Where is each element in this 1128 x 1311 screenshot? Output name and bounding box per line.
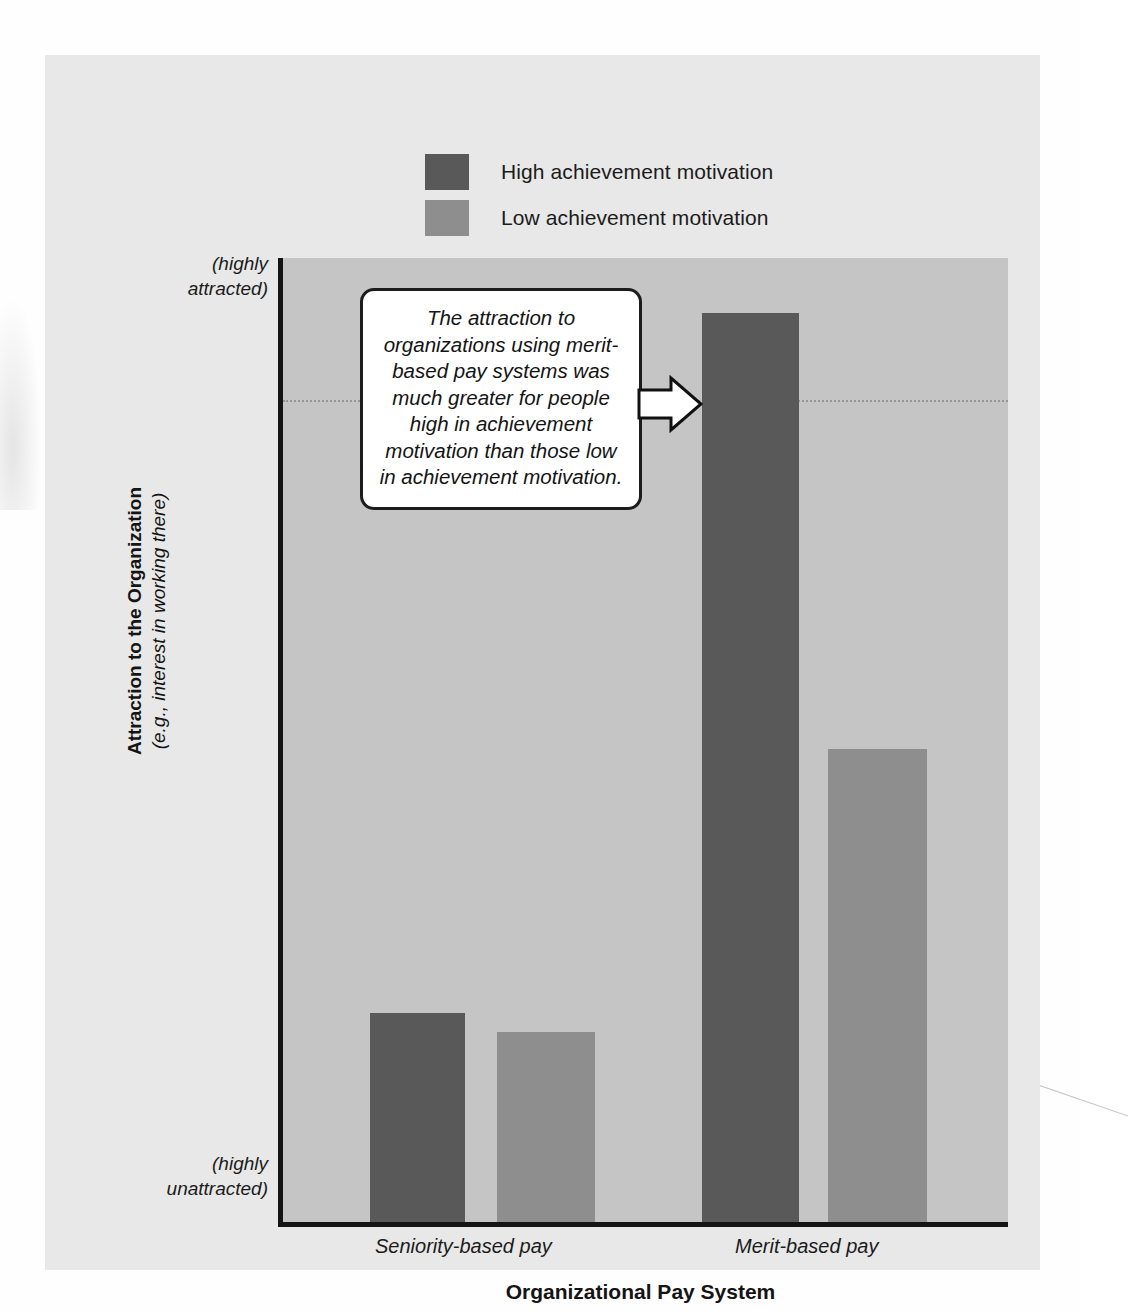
x-axis-title: Organizational Pay System [278, 1280, 1003, 1304]
legend-swatch-high [425, 154, 469, 190]
legend-item-low: Low achievement motivation [425, 199, 855, 237]
legend-swatch-low [425, 200, 469, 236]
y-axis-title-line2: (e.g., interest in working there) [147, 371, 171, 871]
bar-high-merit [702, 313, 799, 1222]
y-axis-bottom-label-line2: unattracted) [167, 1178, 268, 1199]
y-axis-top-label: (highly attracted) [105, 251, 268, 301]
y-axis-title: Attraction to the Organization (e.g., in… [123, 371, 171, 871]
legend: High achievement motivation Low achievem… [425, 153, 855, 245]
scan-artifact-left [0, 300, 42, 510]
y-axis-bottom-label: (highly unattracted) [85, 1151, 268, 1201]
figure-panel: High achievement motivation Low achievem… [45, 55, 1040, 1270]
x-tick-label-seniority: Seniority-based pay [375, 1235, 552, 1258]
legend-label-high: High achievement motivation [501, 160, 773, 184]
bar-low-merit [828, 749, 927, 1222]
bar-high-seniority [370, 1013, 465, 1222]
bar-low-seniority [497, 1032, 595, 1222]
y-axis-bottom-label-line1: (highly [212, 1153, 268, 1174]
x-tick-label-merit: Merit-based pay [735, 1235, 878, 1258]
y-axis-title-line1: Attraction to the Organization [123, 371, 147, 871]
y-axis-top-label-line1: (highly [212, 253, 268, 274]
callout-arrow-icon [637, 375, 703, 433]
legend-item-high: High achievement motivation [425, 153, 855, 191]
callout-box: The attraction to organizations using me… [360, 288, 642, 510]
y-axis-top-label-line2: attracted) [188, 278, 268, 299]
legend-label-low: Low achievement motivation [501, 206, 769, 230]
